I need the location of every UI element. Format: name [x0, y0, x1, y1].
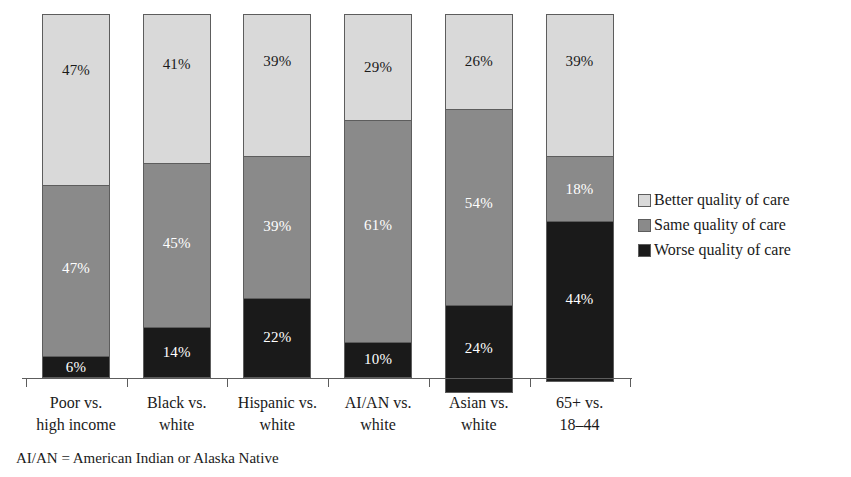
bar-segment-value-label: 44%: [565, 292, 593, 307]
bar-segment-better[interactable]: 39%: [546, 14, 614, 156]
bar-segment-same[interactable]: 45%: [143, 163, 211, 327]
bar-segment-same[interactable]: 39%: [243, 156, 311, 298]
bar-segment-value-label: 45%: [163, 236, 191, 251]
bar-segment-worse[interactable]: 6%: [42, 356, 110, 378]
legend-swatch-better-icon: [638, 194, 651, 207]
x-axis-label-line: 18–44: [529, 414, 631, 436]
chart-title: [0, 0, 851, 7]
bar-segment-better[interactable]: 39%: [243, 14, 311, 156]
bar-column: 47%47%6%: [42, 14, 110, 378]
legend-item-worse[interactable]: Worse quality of care: [638, 238, 848, 262]
x-axis-label-line: Hispanic vs.: [226, 392, 328, 414]
bar-segment-value-label: 47%: [62, 261, 90, 276]
legend-label-better: Better quality of care: [654, 191, 790, 209]
bar-segment-value-label: 39%: [565, 54, 593, 69]
chart-legend: Better quality of care Same quality of c…: [638, 188, 848, 263]
legend-swatch-worse-icon: [638, 244, 651, 257]
bar-column: 39%39%22%: [243, 14, 311, 378]
bar-segment-same[interactable]: 47%: [42, 185, 110, 356]
bar-segment-worse[interactable]: 14%: [143, 327, 211, 378]
x-axis-line: [22, 378, 632, 379]
legend-item-better[interactable]: Better quality of care: [638, 188, 848, 212]
plot-area: 47%47%6%41%45%14%39%39%22%29%61%10%26%54…: [22, 14, 632, 378]
bar-segment-value-label: 61%: [364, 218, 392, 233]
bar-segment-value-label: 29%: [364, 60, 392, 75]
bar-segment-value-label: 22%: [263, 330, 291, 345]
bar-segment-value-label: 26%: [465, 54, 493, 69]
bar-segment-better[interactable]: 26%: [445, 14, 513, 109]
bar-segment-better[interactable]: 29%: [344, 14, 412, 120]
footnote: AI/AN = American Indian or Alaska Native: [16, 449, 279, 467]
x-axis-tick: [630, 378, 631, 387]
bar-segment-value-label: 39%: [263, 54, 291, 69]
bar-segment-worse[interactable]: 44%: [546, 221, 614, 381]
legend-label-same: Same quality of care: [654, 216, 786, 234]
bar-stack[interactable]: 26%54%24%: [445, 14, 513, 378]
x-axis-label-line: AI/AN vs.: [327, 392, 429, 414]
x-axis-label-2: Black vs.white: [126, 392, 228, 436]
bar-stack[interactable]: 39%39%22%: [243, 14, 311, 378]
bar-segment-value-label: 18%: [565, 182, 593, 197]
x-axis-label-line: high income: [25, 414, 127, 436]
bar-column: 41%45%14%: [143, 14, 211, 378]
bar-segment-worse[interactable]: 10%: [344, 342, 412, 378]
x-axis-tick: [530, 378, 531, 387]
x-axis-tick: [127, 378, 128, 387]
bar-segment-worse[interactable]: 22%: [243, 298, 311, 378]
x-axis-label-line: Black vs.: [126, 392, 228, 414]
x-axis-label-line: white: [428, 414, 530, 436]
x-axis-label-line: white: [327, 414, 429, 436]
x-axis-label-5: Asian vs.white: [428, 392, 530, 436]
bar-segment-same[interactable]: 18%: [546, 156, 614, 222]
x-axis-label-line: white: [226, 414, 328, 436]
bar-segment-value-label: 24%: [465, 341, 493, 356]
bar-segment-value-label: 41%: [163, 57, 191, 72]
bar-segment-value-label: 10%: [364, 352, 392, 367]
legend-swatch-same-icon: [638, 219, 651, 232]
legend-label-worse: Worse quality of care: [654, 241, 791, 259]
x-axis-label-3: Hispanic vs.white: [226, 392, 328, 436]
x-axis-tick: [328, 378, 329, 387]
x-axis-label-line: Poor vs.: [25, 392, 127, 414]
bar-column: 29%61%10%: [344, 14, 412, 378]
bar-segment-better[interactable]: 47%: [42, 14, 110, 185]
bar-segment-same[interactable]: 61%: [344, 120, 412, 342]
bar-segment-value-label: 6%: [66, 360, 86, 375]
bar-segment-value-label: 14%: [163, 345, 191, 360]
bar-segment-same[interactable]: 54%: [445, 109, 513, 306]
x-axis-label-4: AI/AN vs.white: [327, 392, 429, 436]
bar-stack[interactable]: 47%47%6%: [42, 14, 110, 378]
bar-stack[interactable]: 39%18%44%: [546, 14, 614, 378]
bar-segment-value-label: 39%: [263, 219, 291, 234]
legend-item-same[interactable]: Same quality of care: [638, 213, 848, 237]
bar-column: 39%18%44%: [546, 14, 614, 378]
bar-segment-value-label: 47%: [62, 63, 90, 78]
bar-stack[interactable]: 41%45%14%: [143, 14, 211, 378]
bar-stack[interactable]: 29%61%10%: [344, 14, 412, 378]
bar-segment-better[interactable]: 41%: [143, 14, 211, 163]
bar-column: 26%54%24%: [445, 14, 513, 378]
x-axis-label-6: 65+ vs.18–44: [529, 392, 631, 436]
bar-segment-value-label: 54%: [465, 196, 493, 211]
x-axis-label-line: 65+ vs.: [529, 392, 631, 414]
x-axis-tick: [429, 378, 430, 387]
x-axis-label-1: Poor vs.high income: [25, 392, 127, 436]
bar-segment-worse[interactable]: 24%: [445, 305, 513, 392]
x-axis-tick: [227, 378, 228, 387]
x-axis-category-labels: Poor vs.high incomeBlack vs.whiteHispani…: [22, 392, 642, 440]
x-axis-tick: [26, 378, 27, 387]
x-axis-label-line: Asian vs.: [428, 392, 530, 414]
x-axis-label-line: white: [126, 414, 228, 436]
